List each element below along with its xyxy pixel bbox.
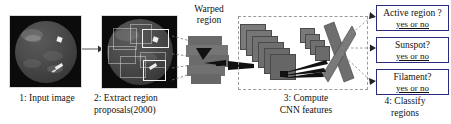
caption-step-4: 4: Classify regions — [368, 96, 442, 119]
caption-step-3-line-1: 3: Compute — [254, 93, 358, 105]
arrows-features-to-classifier — [280, 52, 340, 84]
caption-step-1-line-1: 1: Input image — [8, 93, 86, 105]
connectors-cnn-to-classifiers — [340, 8, 380, 96]
input-image-panel — [9, 15, 82, 88]
figure-canvas: Warped region — [0, 0, 451, 124]
caption-step-4-line-1: 4: Classify — [368, 96, 442, 108]
warped-label-line-1: Warped — [181, 4, 237, 15]
sunspot-feature — [56, 36, 62, 42]
classifier-question: Sunspot? — [377, 39, 448, 51]
classifier-question: Filament? — [377, 71, 448, 83]
solar-disk — [15, 21, 77, 83]
classifier-answer: yes or no — [377, 19, 448, 30]
warped-region-patch — [186, 36, 231, 86]
classifier-question: Active region ? — [377, 7, 448, 19]
caption-step-3-line-2: CNN features — [254, 105, 358, 117]
classifier-box-filament[interactable]: Filament? yes or no — [376, 69, 449, 95]
classifier-answer: yes or no — [377, 83, 448, 94]
classifier-answer: yes or no — [377, 51, 448, 62]
caption-step-3: 3: Compute CNN features — [254, 93, 358, 116]
caption-step-2-line-2: proposals(2000) — [94, 105, 190, 117]
region-proposals-panel — [101, 15, 178, 89]
caption-step-1: 1: Input image — [8, 93, 86, 105]
proposal-box-filament — [143, 60, 166, 81]
warped-region-label: Warped region — [181, 4, 237, 26]
warped-region-arrows — [186, 36, 231, 86]
classifier-box-active-region[interactable]: Active region ? yes or no — [376, 5, 449, 31]
caption-step-2: 2: Extract region proposals(2000) — [94, 93, 190, 116]
proposal-box-sunspot — [142, 29, 169, 48]
caption-step-2-line-1: 2: Extract region — [94, 93, 190, 105]
classifier-box-sunspot[interactable]: Sunspot? yes or no — [376, 37, 449, 63]
arrow-input-to-proposals — [82, 44, 103, 54]
warped-label-line-2: region — [181, 15, 237, 26]
caption-step-4-line-2: regions — [368, 108, 442, 120]
